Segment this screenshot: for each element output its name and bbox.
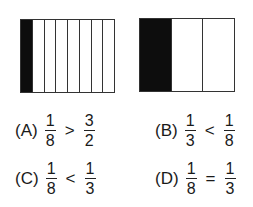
unshaded-part [45,20,57,92]
fraction-left: 1 8 [186,161,197,196]
fraction-right: 1 3 [85,161,96,196]
comparison-operator: > [65,121,75,141]
comparison-operator: = [206,169,216,189]
option-d[interactable]: (D) 1 8 = 1 3 [155,161,236,196]
unshaded-part [68,20,80,92]
shaded-part [21,20,33,92]
fraction-left: 1 3 [185,113,196,148]
unshaded-part [80,20,92,92]
unshaded-part [203,19,234,91]
option-a[interactable]: (A) 1 8 > 3 2 [15,113,95,148]
comparison-operator: < [66,169,76,189]
fraction-left: 1 8 [46,161,57,196]
fraction-right: 1 3 [225,161,236,196]
option-c[interactable]: (C) 1 8 < 1 3 [15,161,96,196]
figure-thirds [139,18,235,92]
fraction-left: 1 8 [45,113,56,148]
option-label: (A) [15,121,38,141]
figure-eighths [20,19,115,93]
unshaded-part [33,20,45,92]
option-label: (D) [155,169,179,189]
option-b[interactable]: (B) 1 3 < 1 8 [155,113,235,148]
shaded-part [140,19,172,91]
unshaded-part [172,19,204,91]
unshaded-part [92,20,104,92]
unshaded-part [103,20,114,92]
fraction-right: 1 8 [224,113,235,148]
option-label: (B) [155,121,178,141]
unshaded-part [56,20,68,92]
fraction-right: 3 2 [84,113,95,148]
option-label: (C) [15,169,39,189]
comparison-operator: < [205,121,215,141]
